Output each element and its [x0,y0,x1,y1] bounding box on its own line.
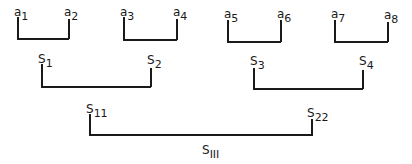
bracket-right-line [280,20,282,42]
bracket-right-line [387,22,389,42]
bracket-left-line [334,20,336,42]
label-s2: S2 [147,53,162,67]
bracket-right-line [68,19,70,39]
bracket-left-line [17,17,19,39]
bracket-left-line [227,20,229,42]
label-a6: a6 [277,7,291,21]
bracket-bottom-line [227,41,281,43]
bracket-left-line [41,64,43,87]
bracket-bottom-line [334,41,388,43]
label-a2: a2 [64,5,78,19]
label-s4: S4 [359,54,374,68]
bracket-bottom-line [17,38,69,40]
bracket-left-line [253,68,255,89]
bracket-bottom-line [41,86,151,88]
label-a4: a4 [173,5,187,19]
bracket-right-line [150,68,152,87]
bracket-left-line [89,114,91,135]
label-s3: S3 [250,54,265,68]
bracket-bottom-line [123,39,177,41]
label-s22: S22 [307,106,329,120]
label-a8: a8 [384,8,398,22]
label-a5: a5 [224,7,238,21]
bracket-right-line [176,19,178,40]
label-siii: SIII [202,143,219,157]
label-a7: a7 [331,7,345,21]
bracket-bottom-line [89,134,312,136]
bracket-bottom-line [253,88,363,90]
bracket-right-line [362,70,364,89]
bracket-left-line [123,17,125,40]
